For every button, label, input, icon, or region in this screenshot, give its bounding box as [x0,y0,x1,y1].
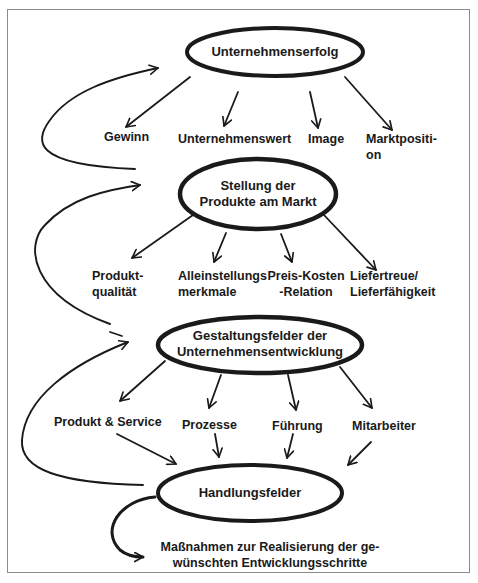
node-label: Handlungsfelder [199,485,302,500]
arrow-to-fuehrung [288,375,296,410]
label-alleinstellung-line2: merkmale [178,284,267,300]
node-stellung-der-produkte: Stellung der Produkte am Markt [180,178,336,210]
arrow-to-mitarbeiter [340,367,372,408]
label-massnahmen-line2: wünschten Entwicklungsschritte [150,555,390,571]
label-mitarbeiter: Mitarbeiter [352,418,416,434]
label-alleinstellungsmerkmale: Alleinstellungs merkmale [178,268,267,300]
label-unternehmenswert: Unternehmenswert [178,131,291,147]
arrow-to-alleinstellung [214,233,226,262]
label-liefertreue-line2: Lieferfähigkeit [350,284,435,300]
arrow-to-liefertreue [324,215,376,270]
label-marktposition-line2: on [366,147,437,163]
label-image: Image [308,131,344,147]
label-produktqualitaet-line2: qualität [92,284,143,300]
label-preiskosten-line1: Preis-Kosten [266,268,346,284]
arrow-to-prozesse [209,375,221,408]
label-preiskosten-line2: -Relation [266,284,346,300]
label-massnahmen: Maßnahmen zur Realisierung der ge- wünsc… [150,539,390,571]
arrow-to-produktqualitaet [132,215,193,258]
node-unternehmenserfolg: Unternehmenserfolg [187,44,363,60]
arrow-prozesse-to-handlungsfelder [215,434,219,457]
label-gewinn: Gewinn [104,129,149,145]
node-gestaltungsfelder: Gestaltungsfelder der Unternehmensentwic… [170,328,350,360]
arrow-to-image [310,92,318,128]
node-label-line2: Unternehmensentwicklung [170,344,350,360]
feedback-arrow-handlung-to-massnahmen [112,497,155,557]
feedback-tick-gestaltung [110,332,122,336]
label-marktposition-line1: Marktpositi- [366,131,437,147]
arrow-mitarbeiter-to-handlungsfelder [348,442,371,465]
arrow-to-preiskosten [281,234,292,262]
label-alleinstellung-line1: Alleinstellungs [178,268,267,284]
arrow-fuehrung-to-handlungsfelder [287,434,293,458]
label-produktqualitaet-line1: Produkt- [92,268,143,284]
node-label: Unternehmenserfolg [211,44,338,59]
label-massnahmen-line1: Maßnahmen zur Realisierung der ge- [150,539,390,555]
label-liefertreue: Liefertreue/ Lieferfähigkeit [350,268,435,300]
label-fuehrung: Führung [272,418,323,434]
label-produktqualitaet: Produkt- qualität [92,268,143,300]
node-label-line1: Stellung der [180,178,336,194]
arrow-to-gewinn [126,77,190,127]
feedback-arrow-stellung-to-erfolg [42,68,158,169]
label-liefertreue-line1: Liefertreue/ [350,268,435,284]
arrow-produkt-service-to-handlungsfelder [117,434,176,464]
feedback-arrow-gestaltung-to-stellung [35,185,140,324]
node-label-line2: Produkte am Markt [180,194,336,210]
node-label-line1: Gestaltungsfelder der [170,328,350,344]
arrow-to-marktposition [345,77,392,130]
label-produkt-service: Produkt & Service [54,414,162,430]
arrow-to-unternehmenswert [224,92,238,126]
label-prozesse: Prozesse [182,417,237,433]
label-marktposition: Marktpositi- on [366,131,437,163]
label-preis-kosten-relation: Preis-Kosten -Relation [266,268,346,300]
node-handlungsfelder: Handlungsfelder [160,485,340,501]
arrow-to-produkt-service [120,361,165,401]
